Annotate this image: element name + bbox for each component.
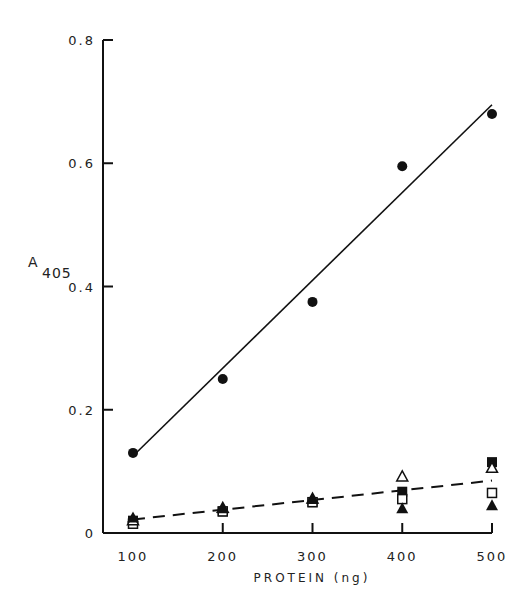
filled-circle-marker (308, 297, 318, 307)
axes: 00.20.40.60.8100200300400500 (68, 33, 507, 564)
chart: 00.20.40.60.8100200300400500 A 405 PROTE… (0, 0, 532, 612)
y-axis-label: A (28, 254, 38, 270)
y-tick-label: 0.4 (68, 280, 95, 295)
y-axis-label-subscript: 405 (42, 265, 72, 281)
y-tick-label: 0.2 (68, 403, 95, 418)
fit-lines (133, 105, 492, 520)
filled-circle-marker (397, 161, 407, 171)
y-tick-label: 0.8 (68, 33, 95, 48)
x-tick-label: 400 (387, 549, 418, 564)
open-square-marker (488, 488, 497, 497)
y-tick-label: 0 (85, 526, 95, 541)
filled-circle-marker (128, 448, 138, 458)
x-axis-label: PROTEIN (ng) (254, 571, 371, 585)
x-tick-label: 100 (118, 549, 149, 564)
filled-triangle-marker (486, 499, 498, 510)
x-tick-label: 200 (207, 549, 238, 564)
filled-circle-marker (218, 374, 228, 384)
data-points (127, 109, 498, 528)
open-square-marker (398, 495, 407, 504)
filled-circle-marker (487, 109, 497, 119)
x-tick-label: 500 (477, 549, 508, 564)
open-triangle-marker (397, 471, 408, 481)
x-tick-label: 300 (297, 549, 328, 564)
solid-fit-line (133, 105, 492, 456)
y-tick-label: 0.6 (68, 156, 95, 171)
